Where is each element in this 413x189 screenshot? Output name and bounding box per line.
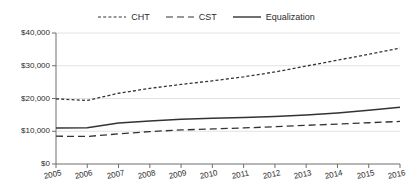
x-axis-ticks: [56, 164, 400, 168]
y-axis-ticks: [52, 33, 56, 164]
chart-figure: CHT CST Equalization $0$10,000$20,000$30…: [0, 0, 413, 189]
gridlines: [56, 33, 400, 131]
chart-plot-area: [0, 0, 413, 189]
y-axis-tick-label: $40,000: [4, 28, 50, 37]
series-line-equalization: [56, 107, 400, 128]
y-axis-tick-label: $30,000: [4, 61, 50, 70]
y-axis-tick-label: $0: [4, 159, 50, 168]
y-axis-tick-label: $20,000: [4, 94, 50, 103]
series-line-cht: [56, 48, 400, 100]
series-lines: [56, 48, 400, 136]
series-line-cst: [56, 121, 400, 136]
y-axis-tick-label: $10,000: [4, 126, 50, 135]
